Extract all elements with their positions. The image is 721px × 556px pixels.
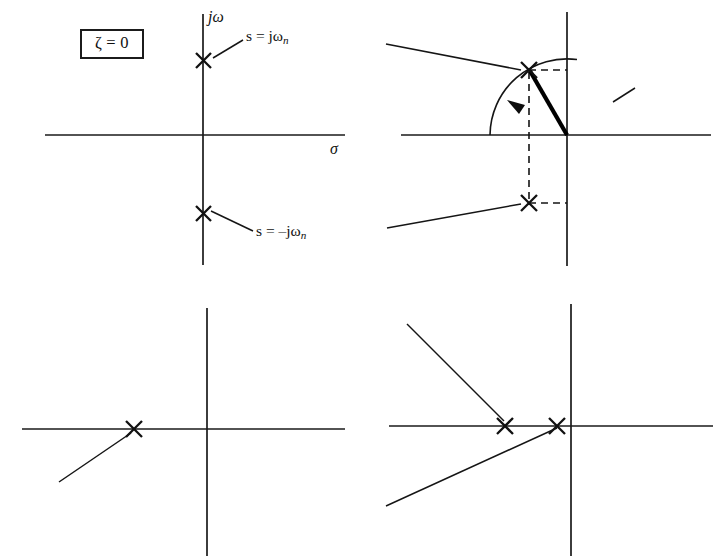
panel-zeta-15-plot	[361, 278, 721, 556]
lower-pole-leader	[211, 211, 253, 231]
angle-label-leader	[613, 88, 635, 102]
panel-zeta-0: ζ = 0 jω σ s = jωn s = –jωn	[0, 0, 360, 278]
panel-zeta-15: ζ = 1.5 jω σ s = (–3/2 – √5/2)ωn s = (–3…	[361, 278, 721, 556]
upper-pole-leader	[213, 40, 243, 58]
angle-arc-arrowhead	[507, 100, 525, 114]
damping-box-zeta-0: ζ = 0	[80, 29, 144, 59]
near-pole-leader	[386, 428, 557, 506]
far-pole-leader	[407, 324, 504, 421]
imaginary-axis-label-p1: jω	[208, 8, 224, 26]
double-pole-leader	[59, 433, 131, 482]
real-axis-label-p1: σ	[330, 140, 338, 158]
lower-pole-label-p1: s = –jωn	[256, 221, 306, 243]
panel-zeta-05-plot	[361, 0, 721, 278]
upper-pole-label-p1: s = jωn	[246, 26, 289, 48]
upper-pole-leader	[386, 44, 521, 70]
lower-pole-leader	[387, 204, 521, 228]
panel-zeta-05: ζ = 0.5 jω σ s = (–1/2 + j√3/2)ωn s = (–…	[361, 0, 721, 278]
s-plane-pole-figure: ζ = 0 jω σ s = jωn s = –jωn	[0, 0, 721, 556]
panel-zeta-1: ζ = 1 jω σ s = –ωn, –ωn(two roots)	[0, 278, 360, 556]
radius-vector	[530, 71, 567, 135]
panel-zeta-1-plot	[0, 278, 360, 556]
